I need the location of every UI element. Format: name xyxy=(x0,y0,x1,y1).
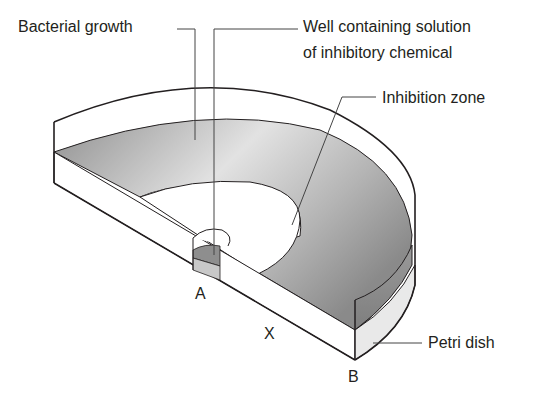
label-bacterial-growth: Bacterial growth xyxy=(18,18,133,36)
diagram-canvas: Bacterial growth Well containing solutio… xyxy=(0,0,546,398)
label-point-a: A xyxy=(195,285,206,303)
label-petri-dish: Petri dish xyxy=(428,334,495,352)
label-inhibition-zone: Inhibition zone xyxy=(382,89,485,107)
label-well-line2: of inhibitory chemical xyxy=(303,44,452,62)
label-point-b: B xyxy=(348,368,359,386)
label-well-line1: Well containing solution xyxy=(303,18,471,36)
label-point-x: X xyxy=(264,325,275,343)
